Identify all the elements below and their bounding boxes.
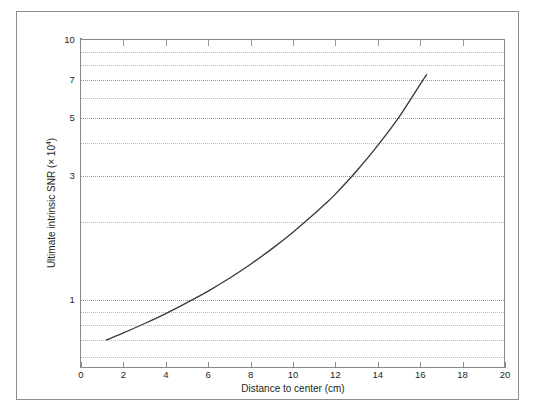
x-tick-4 (166, 362, 167, 367)
x-tick-18 (463, 362, 464, 367)
y-axis-title-exponent: 4 (45, 141, 52, 145)
y-tick-label-7: 7 (70, 74, 75, 85)
data-curve (81, 40, 505, 367)
x-tick-label-2: 2 (121, 369, 126, 380)
figure-border-frame: 135710 Ultimate intrinsic SNR (× 104) 02… (16, 11, 519, 400)
x-tick-12 (335, 362, 336, 367)
x-tick-label-20: 20 (500, 369, 511, 380)
y-axis-title-main: Ultimate intrinsic SNR (× 10 (46, 145, 57, 268)
x-tick-label-8: 8 (248, 369, 253, 380)
y-axis-title: Ultimate intrinsic SNR (× 104) (45, 39, 59, 367)
y-tick-label-5: 5 (70, 112, 75, 123)
x-tick-label-12: 12 (330, 369, 341, 380)
x-tick-14 (378, 362, 379, 367)
curve-path (106, 75, 426, 340)
x-tick-0 (81, 362, 82, 367)
x-tick-label-18: 18 (457, 369, 468, 380)
y-tick-label-10: 10 (64, 34, 75, 45)
y-tick-label-1: 1 (70, 293, 75, 304)
x-tick-label-14: 14 (373, 369, 384, 380)
x-tick-2 (123, 362, 124, 367)
figure-root: 135710 Ultimate intrinsic SNR (× 104) 02… (0, 0, 534, 413)
y-axis-title-tail: ) (46, 138, 57, 141)
x-tick-label-6: 6 (206, 369, 211, 380)
x-tick-20 (505, 362, 506, 367)
x-axis-tick-labels: 02468101214161820 (81, 362, 505, 368)
x-tick-label-10: 10 (288, 369, 299, 380)
x-tick-label-4: 4 (163, 369, 168, 380)
x-axis-title: Distance to center (cm) (81, 383, 505, 394)
y-tick-label-3: 3 (70, 169, 75, 180)
x-tick-16 (420, 362, 421, 367)
x-tick-8 (251, 362, 252, 367)
x-tick-10 (293, 362, 294, 367)
plot-area (81, 39, 505, 367)
x-tick-label-0: 0 (78, 369, 83, 380)
x-tick-6 (208, 362, 209, 367)
x-tick-label-16: 16 (415, 369, 426, 380)
